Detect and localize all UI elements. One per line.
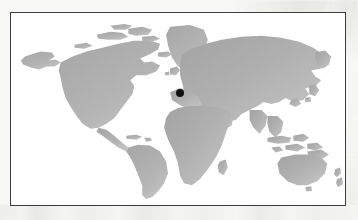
- texture-blotch: [0, 206, 18, 215]
- map-frame: [10, 12, 346, 206]
- world-map: [11, 13, 345, 205]
- location-marker: [176, 89, 184, 97]
- texture-blotch: [300, 2, 326, 12]
- world-map-figure: [0, 0, 358, 220]
- texture-bottom-band: [0, 205, 358, 220]
